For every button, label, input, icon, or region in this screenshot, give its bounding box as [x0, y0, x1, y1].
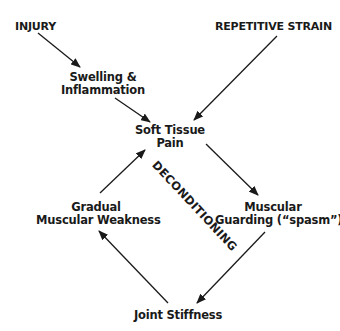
node-joint-stiffness: Joint Stiffness [128, 309, 228, 322]
arrow-stiffness-to-weakness [99, 231, 168, 303]
arrow-swelling-to-pain [115, 98, 150, 122]
node-injury: INJURY [15, 20, 56, 33]
node-muscular-guarding: Muscular Guarding (“spasm”) [215, 201, 331, 227]
arrow-pain-to-guarding [206, 144, 258, 195]
arrow-strain-to-pain [194, 36, 277, 120]
arrows-layer [0, 0, 340, 331]
node-gradual-muscular-weakness: Gradual Muscular Weakness [36, 201, 156, 227]
node-stiffness-label: Joint Stiffness [128, 309, 228, 322]
arrow-injury-to-swelling [38, 33, 80, 67]
node-repetitive-strain: REPETITIVE STRAIN [215, 20, 332, 33]
node-guarding-line2: Guarding (“spasm”) [215, 214, 331, 227]
node-soft-tissue-pain: Soft Tissue Pain [128, 124, 212, 150]
arrow-weakness-to-pain [100, 150, 145, 193]
node-swelling-inflammation: Swelling & Inflammation [60, 71, 146, 97]
node-injury-label: INJURY [15, 20, 56, 33]
node-pain-line2: Pain [128, 137, 212, 150]
node-swelling-line2: Inflammation [60, 84, 146, 97]
node-repetitive-strain-label: REPETITIVE STRAIN [215, 20, 332, 33]
node-weakness-line2: Muscular Weakness [36, 214, 156, 227]
